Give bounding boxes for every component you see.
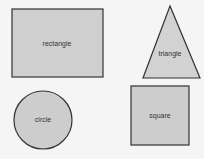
shapes-canvas: rectangle triangle circle square bbox=[0, 0, 204, 159]
square-label: square bbox=[149, 112, 171, 120]
triangle-shape: triangle bbox=[143, 6, 200, 78]
shapes-diagram: rectangle triangle circle square bbox=[0, 0, 204, 159]
circle-shape: circle bbox=[14, 91, 72, 149]
triangle-label: triangle bbox=[159, 50, 182, 58]
rectangle-shape: rectangle bbox=[12, 9, 103, 77]
rectangle-label: rectangle bbox=[43, 40, 72, 48]
circle-label: circle bbox=[35, 116, 51, 123]
square-shape: square bbox=[131, 86, 189, 145]
